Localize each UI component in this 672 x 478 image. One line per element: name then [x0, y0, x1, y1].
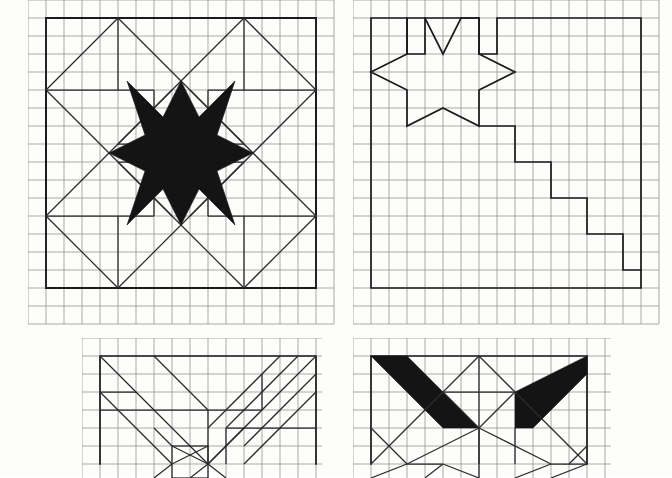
figure-bottom-right — [353, 338, 623, 478]
star-and-staircase-outline — [371, 18, 641, 288]
figure-bottom-left — [82, 338, 332, 478]
solid-star — [109, 81, 253, 225]
figure-bottom-right-canvas — [353, 338, 623, 478]
center-square-and-diagonals — [154, 428, 244, 478]
figure-bottom-left-canvas — [82, 338, 332, 478]
figure-top-left-canvas — [28, 0, 338, 325]
graph-grid — [353, 0, 659, 324]
figure-top-left — [28, 0, 338, 325]
figure-top-right-canvas — [353, 0, 663, 325]
graph-grid — [82, 338, 322, 478]
figure-top-right — [353, 0, 663, 325]
